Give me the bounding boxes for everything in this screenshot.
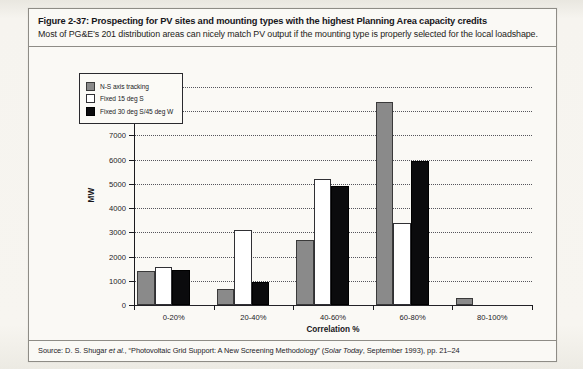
gridline [134,184,532,185]
legend-label-0: N-S axis tracking [100,83,149,90]
y-tick-label: 3000 [109,228,126,237]
legend-item-2: Fixed 30 deg S/45 deg W [86,106,173,117]
source-prefix: Source: D. S. Shugar [38,346,109,355]
gridline [134,111,532,112]
x-tick [452,305,453,310]
x-tick-label: 60-80% [400,313,426,322]
bar-2-2 [331,186,349,305]
x-tick [293,305,294,310]
x-tick [134,305,135,310]
legend-swatch-fixed-15-deg-s [86,94,95,103]
y-tick-label: 6000 [109,155,126,164]
y-tick [129,208,134,209]
y-tick-label: 5000 [109,179,126,188]
y-axis-title: MW [87,188,96,203]
legend-swatch-ns-axis-tracking [86,82,95,91]
y-tick [129,232,134,233]
x-tick [532,305,533,310]
bar-0-1 [217,289,235,305]
chart-axes: 0100020003000400050006000700080009000 0-… [134,87,532,305]
source-etal: et al. [109,346,125,355]
y-tick-label: 1000 [109,276,126,285]
bar-2-0 [172,270,190,305]
legend-swatch-fixed-30-deg-s-45-deg-w [86,107,95,116]
x-axis-title: Correlation % [306,325,359,334]
y-tick [129,281,134,282]
x-tick-label: 40-60% [320,313,346,322]
bar-0-0 [137,271,155,305]
y-tick [129,135,134,136]
x-tick-label: 20-40% [240,313,266,322]
y-tick-label: 4000 [109,204,126,213]
figure-source: Source: D. S. Shugar et al., “Photovolta… [29,340,556,361]
bar-1-1 [234,230,252,305]
source-publication: Solar Today [324,346,363,355]
bar-0-2 [296,240,314,305]
legend-label-1: Fixed 15 deg S [100,95,144,102]
source-suffix: , September 1993), pp. 21–24 [363,346,460,355]
gridline [134,135,532,136]
x-tick [214,305,215,310]
y-tick [129,257,134,258]
gridline [134,160,532,161]
bar-1-3 [393,223,411,305]
chart-legend: N-S axis tracking Fixed 15 deg S Fixed 3… [79,73,183,124]
bar-2-3 [411,161,429,305]
bar-2-1 [252,282,270,305]
y-tick-label: 0 [122,301,126,310]
figure-frame: Figure 2-37: Prospecting for PV sites an… [28,8,557,362]
figure-caption: Figure 2-37: Prospecting for PV sites an… [29,9,556,47]
bar-1-0 [155,267,173,305]
x-tick [373,305,374,310]
chart-plot-area: MW 0100020003000400050006000700080009000… [29,57,556,333]
x-tick-label: 0-20% [163,313,185,322]
legend-item-0: N-S axis tracking [86,81,173,92]
y-tick-label: 2000 [109,252,126,261]
legend-label-2: Fixed 30 deg S/45 deg W [100,108,173,115]
y-tick [129,184,134,185]
figure-subtitle: Most of PG&E’s 201 distribution areas ca… [38,29,547,41]
figure-title: Figure 2-37: Prospecting for PV sites an… [38,15,547,27]
bar-0-4 [456,298,474,305]
bar-1-2 [314,179,332,305]
page-background: Figure 2-37: Prospecting for PV sites an… [0,0,583,369]
gridline [134,87,532,88]
gridline [134,305,532,306]
legend-item-1: Fixed 15 deg S [86,93,173,104]
y-tick [129,160,134,161]
source-mid: , “Photovoltaic Grid Support: A New Scre… [125,346,325,355]
bar-0-3 [376,102,394,305]
y-tick-label: 7000 [109,131,126,140]
x-tick-label: 80-100% [477,313,507,322]
